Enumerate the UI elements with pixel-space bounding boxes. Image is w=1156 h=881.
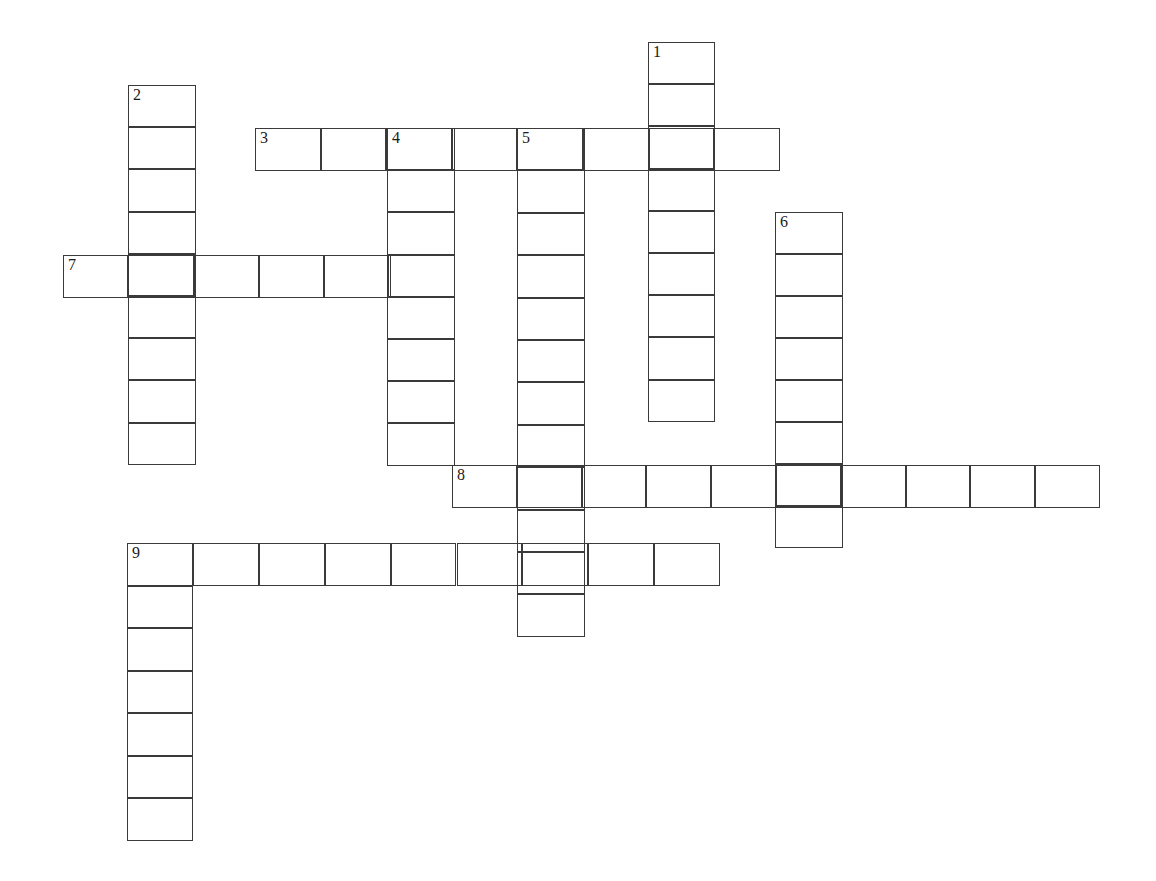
crossword-cell[interactable]: [517, 170, 585, 212]
crossword-cell[interactable]: [387, 297, 455, 339]
crossword-cell[interactable]: [517, 340, 585, 382]
crossword-cell[interactable]: 8: [452, 465, 517, 508]
crossword-cell[interactable]: [714, 128, 780, 171]
crossword-puzzle: 123456789: [0, 0, 1156, 881]
crossword-cell[interactable]: [128, 169, 196, 211]
crossword-cell[interactable]: [128, 338, 196, 380]
crossword-cell[interactable]: [583, 128, 649, 171]
crossword-cell[interactable]: [648, 380, 715, 422]
crossword-cell[interactable]: [387, 381, 455, 423]
crossword-cell[interactable]: [127, 671, 193, 714]
crossword-grid: 123456789: [0, 0, 1156, 881]
crossword-cell[interactable]: [775, 254, 843, 296]
crossword-cell[interactable]: [775, 506, 843, 548]
crossword-cell[interactable]: [127, 713, 193, 756]
crossword-cell[interactable]: [387, 170, 455, 212]
crossword-cell[interactable]: [128, 380, 196, 422]
crossword-cell[interactable]: [387, 339, 455, 381]
crossword-cell[interactable]: [711, 465, 776, 508]
crossword-cell[interactable]: [457, 543, 523, 586]
crossword-cell[interactable]: [128, 423, 196, 465]
crossword-cell[interactable]: [127, 628, 193, 671]
crossword-cell[interactable]: [588, 543, 654, 586]
crossword-cell[interactable]: [841, 465, 906, 508]
crossword-cell[interactable]: [775, 338, 843, 380]
crossword-cell[interactable]: [517, 213, 585, 255]
crossword-cell[interactable]: [517, 298, 585, 340]
cell-number: 3: [260, 130, 268, 147]
crossword-cell[interactable]: [390, 255, 455, 298]
crossword-cell[interactable]: [128, 255, 193, 298]
crossword-cell[interactable]: [321, 128, 387, 171]
crossword-cell[interactable]: 7: [63, 255, 128, 298]
crossword-cell[interactable]: [324, 255, 389, 298]
crossword-cell[interactable]: [906, 465, 971, 508]
crossword-cell[interactable]: 1: [648, 42, 715, 84]
crossword-cell[interactable]: [970, 465, 1035, 508]
crossword-cell[interactable]: [259, 543, 325, 586]
crossword-cell[interactable]: [517, 465, 582, 508]
crossword-cell[interactable]: [127, 543, 193, 586]
crossword-cell[interactable]: [775, 296, 843, 338]
crossword-cell[interactable]: [452, 128, 518, 171]
crossword-cell[interactable]: [648, 211, 715, 253]
crossword-cell[interactable]: 5: [517, 128, 585, 170]
cell-number: 6: [780, 214, 788, 231]
crossword-cell[interactable]: [646, 465, 711, 508]
crossword-cell[interactable]: [654, 543, 720, 586]
crossword-cell[interactable]: [1035, 465, 1100, 508]
crossword-cell[interactable]: [775, 380, 843, 422]
crossword-cell[interactable]: [387, 423, 455, 465]
crossword-cell[interactable]: [649, 128, 715, 171]
cell-number: 8: [457, 467, 465, 484]
cell-number: 5: [522, 130, 530, 147]
crossword-cell[interactable]: [128, 212, 196, 254]
crossword-cell[interactable]: [259, 255, 324, 298]
crossword-cell[interactable]: [517, 425, 585, 467]
cell-number: 2: [133, 87, 141, 104]
crossword-cell[interactable]: [648, 337, 715, 379]
crossword-cell[interactable]: [127, 586, 193, 629]
crossword-cell[interactable]: [128, 296, 196, 338]
crossword-cell[interactable]: [127, 756, 193, 799]
cell-number: 4: [392, 130, 400, 147]
crossword-cell[interactable]: [648, 84, 715, 126]
crossword-cell[interactable]: [325, 543, 391, 586]
crossword-cell[interactable]: [517, 382, 585, 424]
crossword-cell[interactable]: [387, 212, 455, 254]
crossword-cell[interactable]: 6: [775, 212, 843, 254]
crossword-cell[interactable]: [128, 127, 196, 169]
cell-number: 1: [653, 44, 661, 61]
crossword-cell[interactable]: 3: [255, 128, 321, 171]
crossword-cell[interactable]: [775, 422, 843, 464]
crossword-cell[interactable]: [391, 543, 457, 586]
crossword-cell[interactable]: [648, 295, 715, 337]
crossword-cell[interactable]: [648, 169, 715, 211]
crossword-cell[interactable]: [648, 253, 715, 295]
crossword-cell[interactable]: [127, 798, 193, 841]
crossword-cell[interactable]: [517, 255, 585, 297]
crossword-cell[interactable]: 2: [128, 85, 196, 127]
crossword-cell[interactable]: [522, 543, 588, 586]
crossword-cell[interactable]: 4: [387, 128, 455, 170]
cell-number: 7: [68, 257, 76, 274]
crossword-cell[interactable]: [193, 543, 259, 586]
crossword-cell[interactable]: [776, 465, 841, 508]
crossword-cell[interactable]: [517, 594, 585, 636]
crossword-cell[interactable]: [582, 465, 647, 508]
crossword-cell[interactable]: [194, 255, 259, 298]
